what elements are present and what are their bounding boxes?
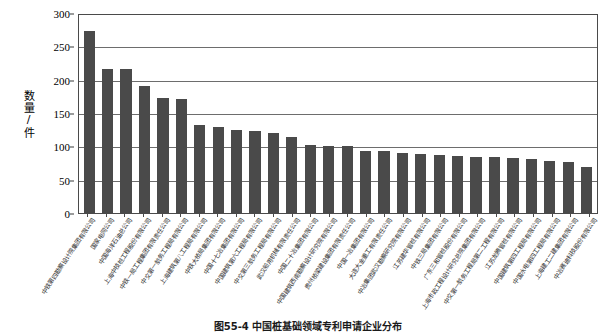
bar xyxy=(84,31,95,213)
y-tick-label: 250 xyxy=(54,42,71,53)
x-tick-mark xyxy=(254,214,255,217)
y-axis-title: 数量/件 xyxy=(20,90,36,138)
x-tick-mark xyxy=(533,214,534,217)
y-tick-label: 200 xyxy=(54,75,71,86)
x-tick-mark xyxy=(366,214,367,217)
bar-slot xyxy=(209,15,227,213)
bar-slot xyxy=(467,15,485,213)
bar-slot xyxy=(412,15,430,213)
y-tick-mark xyxy=(70,47,74,48)
bar xyxy=(120,69,131,213)
x-tick-mark xyxy=(162,214,163,217)
bar xyxy=(268,133,279,213)
x-tick-mark xyxy=(496,214,497,217)
bar xyxy=(434,155,445,213)
bar-slot xyxy=(338,15,356,213)
bar-slot xyxy=(191,15,209,213)
bar xyxy=(176,99,187,213)
y-tick-mark xyxy=(70,214,74,215)
x-tick-mark xyxy=(552,214,553,217)
bar-slot xyxy=(117,15,135,213)
bar-slot xyxy=(319,15,337,213)
bar xyxy=(378,151,389,213)
bar xyxy=(249,131,260,213)
bar xyxy=(507,158,518,213)
x-tick-mark xyxy=(199,214,200,217)
x-tick-mark xyxy=(87,214,88,217)
y-tick-label: 50 xyxy=(59,175,70,186)
bar-slot xyxy=(135,15,153,213)
x-tick-mark xyxy=(124,214,125,217)
bar xyxy=(157,98,168,213)
bar-slot xyxy=(541,15,559,213)
bar-slot xyxy=(246,15,264,213)
bar-slot xyxy=(227,15,245,213)
bar xyxy=(102,69,113,213)
bar-slot xyxy=(172,15,190,213)
x-tick-slot: 中冶赛迪科技股份有限公司 xyxy=(579,215,598,315)
bar-slot xyxy=(522,15,540,213)
x-tick-mark xyxy=(310,214,311,217)
bar-slot xyxy=(485,15,503,213)
x-tick-mark xyxy=(329,214,330,217)
bar xyxy=(526,159,537,213)
x-tick-mark xyxy=(459,214,460,217)
bar xyxy=(305,145,316,213)
y-tick-mark xyxy=(70,147,74,148)
x-tick-mark xyxy=(403,214,404,217)
x-axis-labels: 中铁第四勘察设计院集团有限公司国家电网公司中国海洋石油总公司上海中技桩工程股份有… xyxy=(78,215,598,315)
x-tick-mark xyxy=(106,214,107,217)
y-tick-label: 100 xyxy=(54,142,71,153)
bar-slot xyxy=(430,15,448,213)
x-tick-mark xyxy=(422,214,423,217)
bar xyxy=(452,156,463,213)
y-axis: 050100150200250300 xyxy=(40,14,74,214)
bar-slot xyxy=(154,15,172,213)
bar-slot xyxy=(504,15,522,213)
bar xyxy=(397,153,408,213)
figure-caption: 图55-4 中国桩基础领域专利申请企业分布 xyxy=(0,318,616,333)
x-tick-label: 中铁第四勘察设计院集团有限公司 xyxy=(40,217,96,296)
x-tick-mark xyxy=(440,214,441,217)
y-tick-label: 150 xyxy=(54,109,71,120)
plot-area xyxy=(78,14,598,214)
bar xyxy=(415,154,426,213)
x-tick-mark xyxy=(217,214,218,217)
bar xyxy=(286,137,297,213)
x-tick-mark xyxy=(273,214,274,217)
bar xyxy=(544,161,555,213)
y-tick-mark xyxy=(70,114,74,115)
x-tick-mark xyxy=(347,214,348,217)
x-tick-mark xyxy=(570,214,571,217)
x-tick-mark xyxy=(180,214,181,217)
bar-slot xyxy=(301,15,319,213)
bar-slot xyxy=(283,15,301,213)
x-tick-mark xyxy=(589,214,590,217)
bar-slot xyxy=(448,15,466,213)
bar-slot xyxy=(98,15,116,213)
bar xyxy=(194,125,205,213)
bar-slot xyxy=(356,15,374,213)
bar-slot xyxy=(375,15,393,213)
bar xyxy=(563,162,574,213)
x-tick-mark xyxy=(514,214,515,217)
y-tick-mark xyxy=(70,180,74,181)
bar-slot xyxy=(577,15,595,213)
bar-slot xyxy=(80,15,98,213)
y-tick-mark xyxy=(70,80,74,81)
bar xyxy=(360,151,371,213)
bar xyxy=(213,127,224,213)
bar xyxy=(470,157,481,213)
x-tick-mark xyxy=(236,214,237,217)
y-tick-label: 300 xyxy=(54,9,71,20)
bar xyxy=(139,86,150,213)
x-tick-mark xyxy=(292,214,293,217)
bar xyxy=(581,167,592,213)
bar xyxy=(231,130,242,213)
x-tick-slot: 中铁第四勘察设计院集团有限公司 xyxy=(78,215,97,315)
x-tick-mark xyxy=(477,214,478,217)
bar-slot xyxy=(264,15,282,213)
y-tick-mark xyxy=(70,14,74,15)
x-tick-mark xyxy=(143,214,144,217)
